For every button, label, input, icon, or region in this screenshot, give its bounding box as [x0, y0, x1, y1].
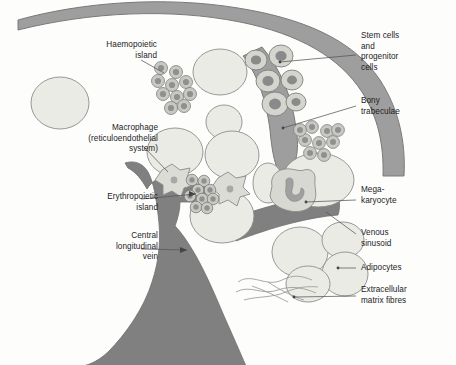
pale-cell [31, 77, 89, 129]
cell-nucleus [193, 204, 198, 209]
cell-nucleus [199, 196, 204, 201]
label-venous-sinusoid: Venous sinusoid [361, 228, 456, 249]
label-megakaryocyte: Mega- karyocyte [361, 185, 456, 206]
label-macrophage: Macrophage (reticuloendothelial system) [48, 123, 158, 155]
cell-nucleus [195, 187, 200, 192]
cell-nucleus [201, 178, 206, 183]
cell-nucleus [181, 103, 187, 109]
megakaryocyte-group [270, 169, 316, 212]
leader-endpoint [305, 201, 308, 204]
megakaryocyte-cell [270, 169, 316, 212]
cell-nucleus [155, 78, 161, 84]
cell-nucleus [160, 91, 166, 97]
label-extracellular-matrix-fibres: Extracellular matrix fibres [361, 285, 456, 306]
macrophage-nucleus [227, 186, 234, 193]
stem-cell-nucleus [287, 76, 297, 85]
adipocytes-group [272, 222, 368, 302]
cell-nucleus [189, 177, 194, 182]
leader-endpoint [293, 296, 296, 299]
label-erythropoietic-island: Erythropoietic island [63, 192, 158, 213]
stem-cell-nucleus [291, 98, 300, 106]
cell-nucleus [321, 152, 327, 158]
label-haemopoietic-island: Haemopoietic island [65, 40, 157, 61]
cell-nucleus [324, 128, 330, 134]
label-adipocytes: Adipocytes [361, 263, 456, 274]
macrophage-nucleus [171, 177, 178, 184]
cell-nucleus [335, 127, 341, 133]
cell-nucleus [302, 137, 308, 143]
stem-cell-nucleus [251, 55, 261, 64]
cell-nucleus [297, 127, 303, 133]
cell-nucleus [187, 91, 193, 97]
cell-nucleus [210, 196, 215, 201]
cell-nucleus [173, 69, 179, 75]
cell-nucleus [307, 150, 313, 156]
pale-cell [193, 49, 247, 95]
cell-nucleus [168, 105, 174, 111]
cell-nucleus [204, 205, 209, 210]
pale-cell [205, 131, 259, 179]
bone-marrow-diagram: Haemopoietic island Macrophage (reticulo… [0, 0, 456, 365]
stem-progenitor-cluster [245, 45, 306, 116]
leader-endpoint [282, 127, 285, 130]
label-central-longitudinal-vein: Central longitudinal vein [63, 231, 158, 263]
stem-cell-nucleus [275, 51, 286, 61]
cell-nucleus [183, 79, 189, 85]
label-stem-and-progenitor-cells: Stem cells and progenitor cells [361, 31, 456, 73]
stem-cell-nucleus [262, 76, 273, 86]
cell-nucleus [169, 82, 175, 88]
leader-endpoint [279, 61, 282, 64]
cell-nucleus [174, 94, 180, 100]
cell-nucleus [330, 139, 336, 145]
cell-nucleus [309, 124, 315, 130]
leader-endpoint [337, 267, 340, 270]
progenitor-cell-cluster-right [294, 121, 345, 162]
cell-nucleus [316, 140, 322, 146]
label-bony-trabeculae: Bony trabeculae [361, 96, 456, 117]
cell-nucleus [207, 187, 212, 192]
stem-cell-nucleus [269, 99, 281, 110]
